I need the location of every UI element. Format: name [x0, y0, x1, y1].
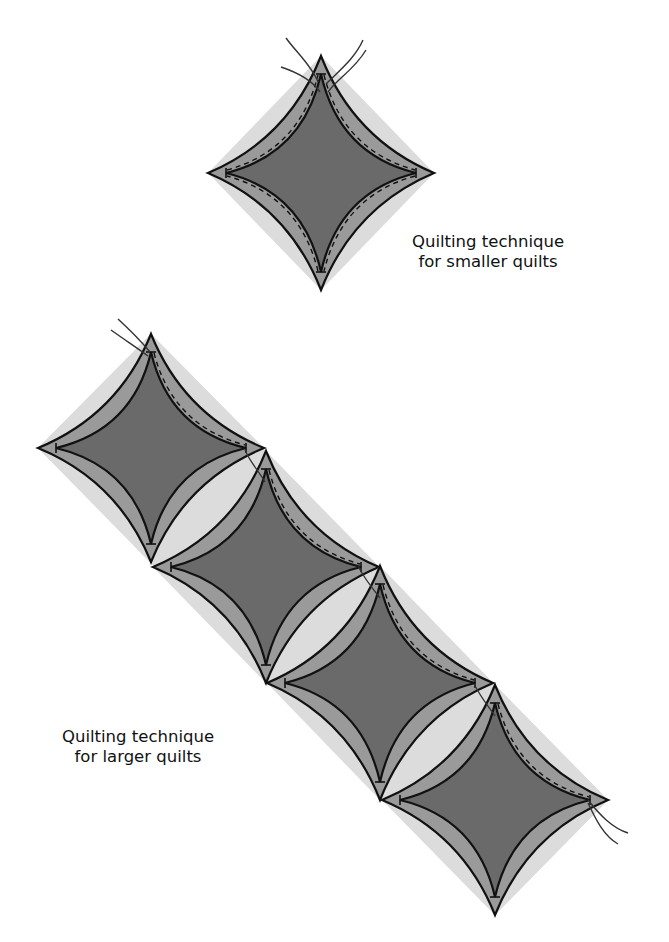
caption-smaller-line1: Quilting technique [398, 232, 578, 252]
larger-quilt-diagram [38, 319, 628, 915]
caption-larger-quilts: Quilting technique for larger quilts [48, 727, 228, 767]
quilting-diagram [0, 0, 669, 942]
caption-larger-line2: for larger quilts [48, 747, 228, 767]
caption-larger-line1: Quilting technique [48, 727, 228, 747]
caption-smaller-line2: for smaller quilts [398, 252, 578, 272]
caption-smaller-quilts: Quilting technique for smaller quilts [398, 232, 578, 272]
